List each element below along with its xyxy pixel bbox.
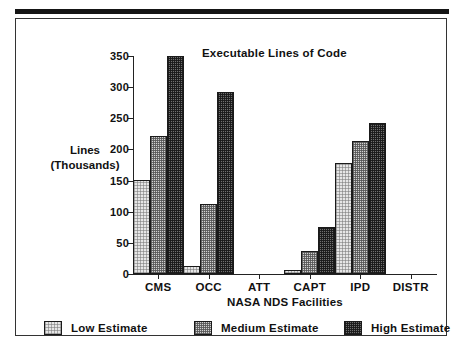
legend-label-medium: Medium Estimate [221, 322, 319, 334]
x-tick-label: DISTR [393, 281, 429, 293]
y-tick-label: 350 [110, 50, 129, 62]
bar-cms-medium [150, 136, 167, 274]
plot-area [133, 56, 436, 274]
chart-legend: Low EstimateMedium EstimateHigh Estimate [44, 321, 450, 343]
bar-occ-medium [200, 204, 217, 274]
y-tick-label: 150 [110, 175, 129, 187]
x-tick-label: CAPT [293, 281, 326, 293]
x-tick-mark [360, 274, 361, 279]
chart-frame: Executable Lines of Code Lines (Thousand… [15, 18, 447, 336]
legend-item-high[interactable]: High Estimate [344, 321, 450, 335]
top-rule-divider [15, 9, 449, 14]
bar-ipd-low [335, 163, 352, 274]
x-axis-line [133, 274, 437, 275]
legend-swatch-medium [194, 321, 212, 335]
legend-label-high: High Estimate [371, 322, 450, 334]
x-tick-mark [411, 274, 412, 279]
bar-capt-medium [301, 251, 318, 274]
bar-occ-low [183, 266, 200, 274]
bar-capt-high [318, 227, 335, 274]
x-tick-mark [259, 274, 260, 279]
legend-swatch-low [44, 321, 62, 335]
chart-page: Executable Lines of Code Lines (Thousand… [0, 0, 464, 358]
bar-capt-low [284, 270, 301, 274]
y-tick-label: 200 [110, 143, 129, 155]
legend-item-medium[interactable]: Medium Estimate [194, 321, 319, 335]
x-tick-label: CMS [145, 281, 171, 293]
legend-item-low[interactable]: Low Estimate [44, 321, 148, 335]
x-tick-mark [310, 274, 311, 279]
y-axis-label-line2: (Thousands) [42, 158, 128, 173]
x-tick-label: ATT [248, 281, 270, 293]
bar-cms-low [133, 180, 150, 274]
legend-label-low: Low Estimate [71, 322, 148, 334]
x-tick-label: IPD [350, 281, 370, 293]
x-tick-mark [209, 274, 210, 279]
y-tick-label: 50 [116, 237, 129, 249]
bar-ipd-high [369, 123, 386, 274]
bar-cms-high [167, 56, 184, 274]
y-tick-label: 0 [123, 268, 129, 280]
y-tick-label: 100 [110, 206, 129, 218]
legend-swatch-high [344, 321, 362, 335]
bar-occ-high [217, 92, 234, 274]
bar-ipd-medium [352, 141, 369, 274]
y-tick-label: 300 [110, 81, 129, 93]
x-axis-label: NASA NDS Facilities [133, 296, 437, 308]
x-tick-mark [158, 274, 159, 279]
x-tick-label: OCC [196, 281, 222, 293]
y-tick-label: 250 [110, 112, 129, 124]
